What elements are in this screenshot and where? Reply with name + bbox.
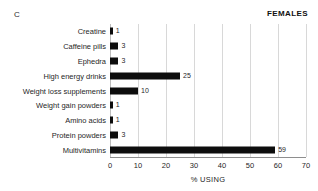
category-label: Weight loss supplements [23,86,106,95]
x-tick-label: 70 [302,161,310,170]
category-label: Multivitamins [63,145,106,154]
bar [110,117,113,124]
x-axis-line [110,157,306,158]
bar-value-label: 59 [278,146,286,154]
category-label: Creatine [78,27,106,36]
bar-row: Multivitamins59 [110,143,306,157]
bar-row: Caffeine pills3 [110,39,306,53]
bar-value-label: 25 [183,72,191,80]
bar-value-label: 1 [116,101,120,109]
category-label: High energy drinks [43,71,106,80]
bar [110,131,118,138]
bar-value-label: 1 [116,116,120,124]
bar-value-label: 3 [121,131,125,139]
bar [110,72,180,79]
category-label: Caffeine pills [63,42,106,51]
bar-row: Amino acids1 [110,113,306,127]
x-tick-label: 50 [246,161,254,170]
bar-row: Ephedra3 [110,54,306,68]
plot-area: Creatine1Caffeine pills3Ephedra3High ene… [110,24,306,157]
x-axis-title: % USING [110,175,306,184]
x-tick-label: 60 [274,161,282,170]
bar-row: Weight loss supplements10 [110,84,306,98]
bar-row: Protein powders3 [110,128,306,142]
x-tick-label: 10 [134,161,142,170]
bar-value-label: 3 [121,42,125,50]
x-tick-label: 0 [108,161,112,170]
category-label: Weight gain powders [36,101,106,110]
bar-value-label: 1 [116,27,120,35]
bar [110,87,138,94]
bar [110,43,118,50]
bar [110,146,275,153]
bar [110,28,113,35]
bar-row: Weight gain powders1 [110,98,306,112]
chart-title: FEMALES [267,9,308,19]
bar [110,57,118,64]
x-tick-label: 30 [190,161,198,170]
bar [110,102,113,109]
category-label: Amino acids [65,116,106,125]
gridline [306,24,307,157]
bar-chart-figure: C FEMALES Creatine1Caffeine pills3Ephedr… [0,0,318,191]
bar-row: High energy drinks25 [110,69,306,83]
bar-row: Creatine1 [110,24,306,38]
category-label: Protein powders [52,130,106,139]
bar-value-label: 10 [141,87,149,95]
x-tick-label: 40 [218,161,226,170]
bar-value-label: 3 [121,57,125,65]
x-tick-label: 20 [162,161,170,170]
panel-label: C [14,10,20,20]
category-label: Ephedra [78,56,106,65]
